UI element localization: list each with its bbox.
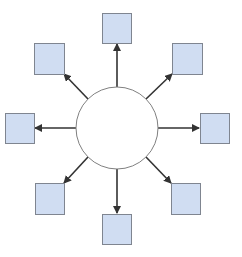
node-box-left — [6, 114, 35, 144]
node-box-bottom-right — [172, 184, 201, 215]
node-box-right — [201, 114, 230, 144]
node-box-bottom-left — [36, 184, 65, 215]
hub-circle — [76, 87, 158, 169]
arrow-to-bottom-right — [146, 157, 171, 183]
node-box-bottom — [103, 215, 132, 245]
node-box-top-left — [35, 44, 65, 75]
node-box-top — [103, 14, 132, 44]
arrow-to-top-left — [64, 74, 88, 99]
arrow-to-top-right — [146, 74, 172, 99]
node-box-top-right — [173, 44, 203, 75]
hub-spoke-diagram — [0, 0, 242, 257]
arrow-to-bottom-left — [64, 157, 88, 183]
